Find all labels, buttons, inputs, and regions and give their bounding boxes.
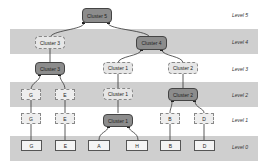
level-0-label: Level 0 bbox=[232, 144, 248, 150]
level-2-label: Level 2 bbox=[232, 92, 248, 98]
node-cluster-5[interactable]: Cluster 5 bbox=[82, 8, 112, 23]
node-cluster-3-level3[interactable]: Cluster 3 bbox=[35, 62, 65, 75]
node-cluster-1-level3[interactable]: Cluster 1 bbox=[103, 62, 133, 74]
node-cluster-4[interactable]: Cluster 4 bbox=[136, 36, 167, 50]
node-b-level1[interactable]: B bbox=[160, 113, 180, 124]
node-g-level2[interactable]: G bbox=[21, 89, 41, 100]
node-cluster-2-level3[interactable]: Cluster 2 bbox=[168, 62, 198, 74]
node-e-level2[interactable]: E bbox=[55, 89, 75, 100]
node-e-level1[interactable]: E bbox=[55, 113, 75, 124]
node-cluster-2-level2[interactable]: Cluster 2 bbox=[168, 88, 198, 101]
node-cluster-1-level1[interactable]: Cluster 1 bbox=[103, 114, 133, 127]
level-4-label: Level 4 bbox=[232, 39, 248, 45]
level-5-label: Level 5 bbox=[232, 12, 248, 18]
node-d-level1[interactable]: D bbox=[194, 113, 214, 124]
level-1-label: Level 1 bbox=[232, 117, 248, 123]
node-cluster-3-level4[interactable]: Cluster 3 bbox=[35, 36, 65, 49]
node-h-level0[interactable]: H bbox=[126, 140, 148, 151]
node-e-level0[interactable]: E bbox=[55, 140, 76, 151]
node-d-level0[interactable]: D bbox=[194, 140, 215, 151]
node-cluster-1-level2[interactable]: Cluster 1 bbox=[103, 88, 133, 100]
node-b-level0[interactable]: B bbox=[160, 140, 181, 151]
level-3-label: Level 3 bbox=[232, 66, 248, 72]
node-a-level0[interactable]: A bbox=[88, 140, 110, 151]
node-g-level0[interactable]: G bbox=[21, 140, 42, 151]
node-g-level1[interactable]: G bbox=[21, 113, 41, 124]
